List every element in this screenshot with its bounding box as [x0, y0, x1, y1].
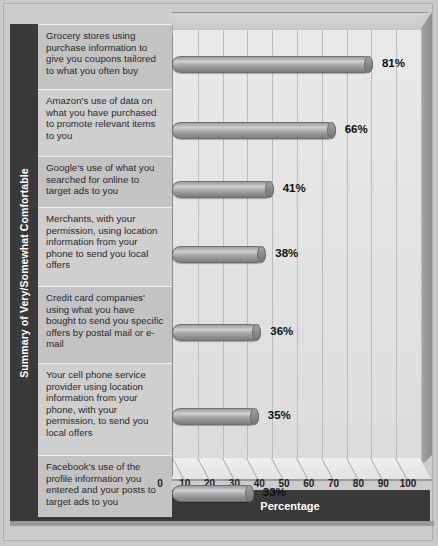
gridline	[396, 30, 397, 467]
x-axis-tick-label: 100	[393, 478, 423, 489]
y-axis-title-text: Summary of Very/Somewhat Comfortable	[18, 168, 30, 378]
gridline	[347, 30, 348, 467]
bar-value-label: 33%	[263, 486, 286, 498]
bar	[172, 485, 254, 502]
plot-ceiling-edge	[172, 12, 428, 13]
bar-value-label: 41%	[283, 182, 306, 194]
gridline	[272, 30, 273, 467]
bar	[172, 246, 266, 263]
bar-value-label: 35%	[268, 409, 291, 421]
category-label: Your cell phone service provider using l…	[38, 363, 172, 455]
gridline	[371, 30, 372, 467]
plot-floor-3d	[160, 458, 432, 480]
category-label-panel: Grocery stores using purchase informatio…	[38, 24, 172, 482]
category-label: Google's use of what you searched for on…	[38, 156, 172, 207]
chart-figure: Summary of Very/Somewhat Comfortable Per…	[0, 0, 438, 546]
bar	[172, 181, 274, 198]
y-axis-title: Summary of Very/Somewhat Comfortable	[10, 24, 38, 521]
bar-value-label: 81%	[382, 57, 405, 69]
bar	[172, 408, 259, 425]
bar	[172, 56, 373, 73]
bar-value-label: 38%	[275, 247, 298, 259]
bar	[172, 324, 261, 341]
category-label: Merchants, with your permission, using l…	[38, 207, 172, 286]
bar-value-label: 36%	[270, 325, 293, 337]
category-label: Grocery stores using purchase informatio…	[38, 24, 172, 89]
bar	[172, 122, 336, 139]
category-label: Credit card companies' using what you ha…	[38, 286, 172, 363]
gridline	[322, 30, 323, 467]
gridline	[421, 30, 422, 467]
frame-shadow	[10, 521, 434, 526]
x-axis-title-text: Percentage	[260, 500, 319, 512]
category-label: Amazon's use of data on what you have pu…	[38, 89, 172, 156]
bar-value-label: 66%	[345, 123, 368, 135]
plot-ceiling-3d	[160, 12, 428, 31]
